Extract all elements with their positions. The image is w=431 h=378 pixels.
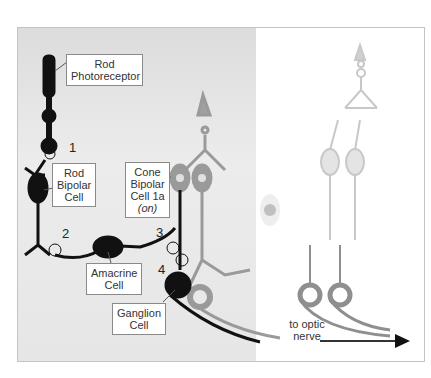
label-ganglion-cell: Ganglion Cell (112, 303, 166, 335)
faded-cone-pathway (321, 45, 377, 240)
synapse-number-4: 4 (158, 262, 165, 277)
label-amacrine-cell: Amacrine Cell (86, 263, 142, 295)
synapse-number-2: 2 (62, 226, 69, 241)
label-rod-photoreceptor: Rod Photoreceptor (66, 54, 143, 86)
synapse-number-3: 3 (156, 225, 163, 240)
optic-nerve-label: to optic nerve (282, 318, 332, 342)
synapse-number-1: 1 (69, 140, 76, 155)
label-cone-bipolar-cell: Cone Bipolar Cell 1a (on) (125, 162, 170, 218)
optic-nerve-arrow (320, 334, 410, 348)
label-rod-bipolar-cell: Rod Bipolar Cell (52, 163, 96, 207)
